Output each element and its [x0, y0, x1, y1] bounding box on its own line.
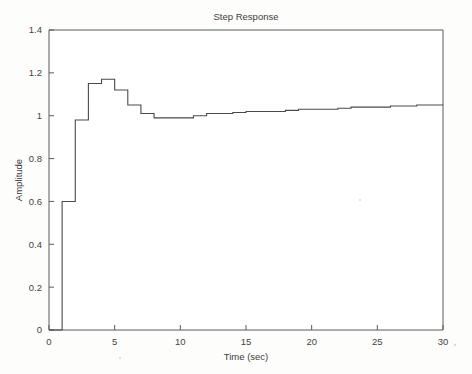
step-response-chart: Step Response 00.20.40.60.811.21.4 05101…	[0, 0, 472, 374]
y-tick-label: 1.2	[29, 67, 42, 78]
y-tick-label: 0	[37, 324, 42, 335]
x-tick-label: 20	[306, 336, 317, 347]
y-tick-label: 0.6	[29, 196, 42, 207]
x-tick-label: 15	[241, 336, 252, 347]
scan-artifact	[454, 344, 456, 346]
plot-area-background	[49, 30, 443, 330]
x-tick-label: 0	[46, 336, 51, 347]
chart-title: Step Response	[214, 11, 279, 22]
y-tick-label: 0.8	[29, 153, 42, 164]
x-tick-label: 10	[175, 336, 186, 347]
scan-artifact	[119, 357, 121, 359]
x-tick-label: 30	[438, 336, 449, 347]
y-tick-label: 1	[37, 110, 42, 121]
figure-canvas: Step Response 00.20.40.60.811.21.4 05101…	[0, 0, 472, 374]
y-tick-label: 1.4	[29, 24, 42, 35]
x-tick-label: 5	[112, 336, 117, 347]
x-axis-title: Time (sec)	[224, 351, 269, 362]
y-axis-title: Amplitude	[13, 159, 24, 201]
scan-artifact	[359, 199, 361, 201]
y-tick-label: 0.4	[29, 239, 42, 250]
y-tick-label: 0.2	[29, 282, 42, 293]
x-tick-label: 25	[372, 336, 383, 347]
